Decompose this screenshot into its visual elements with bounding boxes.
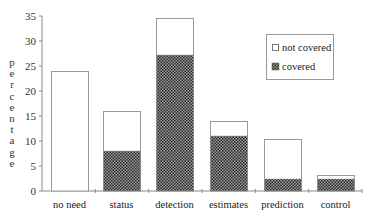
- bar-segment-covered: [104, 151, 141, 191]
- y-axis-label-letter: n: [9, 112, 15, 124]
- legend-swatch-not-covered: [273, 45, 279, 51]
- y-axis: 05101520253035: [25, 10, 42, 197]
- x-category-label: control: [321, 199, 351, 210]
- bar-segment-covered: [265, 179, 302, 191]
- bar-segment-covered: [211, 136, 248, 191]
- y-tick-label: 20: [25, 85, 37, 97]
- x-category-label: status: [110, 199, 134, 210]
- x-category-label: no need: [53, 199, 87, 210]
- bar-no-need: [52, 72, 89, 192]
- y-axis-label-letter: t: [10, 123, 13, 135]
- y-tick-label: 15: [25, 110, 37, 122]
- legend-label-covered: covered: [282, 61, 316, 72]
- bar-estimates: [211, 122, 248, 192]
- bar-prediction: [265, 140, 302, 192]
- y-tick-label: 35: [25, 10, 37, 22]
- y-tick-label: 5: [31, 160, 37, 172]
- stacked-bar-chart: 05101520253035 no needstatusdetectionest…: [0, 0, 376, 216]
- y-axis-label-letter: g: [9, 146, 15, 158]
- y-axis-label-letter: p: [9, 56, 15, 68]
- x-axis: no needstatusdetectionestimatespredictio…: [42, 189, 362, 210]
- bar-segment-covered: [318, 179, 355, 191]
- y-tick-label: 0: [31, 185, 37, 197]
- bar-segment-not-covered: [52, 72, 89, 192]
- legend-label-not-covered: not covered: [282, 42, 332, 53]
- y-axis-label-letter: a: [10, 134, 15, 146]
- legend: not coveredcovered: [267, 35, 334, 80]
- y-axis-label-letter: r: [10, 78, 14, 90]
- bar-status: [104, 112, 141, 192]
- y-axis-label: percentage: [9, 56, 15, 169]
- x-category-label: detection: [155, 199, 194, 210]
- y-axis-label-letter: c: [10, 90, 15, 102]
- legend-swatch-covered: [272, 63, 279, 70]
- y-axis-label-letter: e: [10, 67, 15, 79]
- y-tick-label: 25: [25, 60, 37, 72]
- y-axis-label-letter: e: [10, 157, 15, 169]
- bar-segment-covered: [157, 55, 194, 191]
- y-axis-label-letter: e: [10, 101, 15, 113]
- y-tick-label: 10: [25, 135, 37, 147]
- bar-control: [318, 176, 355, 192]
- y-tick-label: 30: [25, 35, 37, 47]
- x-category-label: prediction: [261, 199, 304, 210]
- bar-detection: [157, 19, 194, 192]
- x-category-label: estimates: [209, 199, 248, 210]
